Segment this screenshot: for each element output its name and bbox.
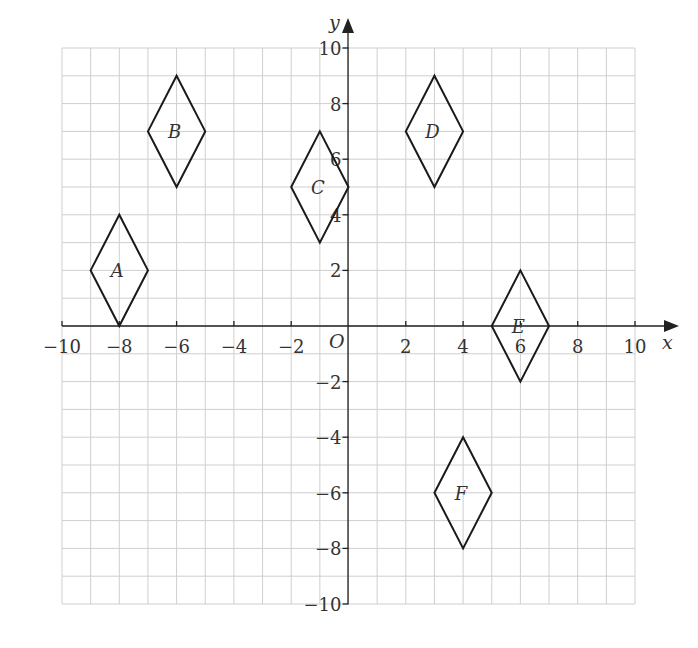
y-tick-label: 2 (330, 260, 341, 281)
shape-label: A (109, 260, 124, 281)
x-axis-label: x (662, 331, 673, 353)
y-tick-label: 4 (330, 205, 341, 226)
x-tick-label: 4 (457, 336, 468, 357)
axes: x y O (62, 11, 679, 604)
x-tick-label: 10 (624, 336, 647, 357)
y-tick-label: −4 (315, 427, 342, 448)
y-tick-label: 10 (319, 38, 342, 59)
shape-label: D (424, 121, 440, 142)
y-tick-label: −10 (304, 594, 342, 615)
x-tick-label: 2 (400, 336, 411, 357)
x-tick-label: −8 (106, 336, 133, 357)
shape-label: C (311, 177, 325, 198)
x-tick-label: −6 (163, 336, 190, 357)
y-tick-label: −2 (315, 372, 342, 393)
x-tick-label: 6 (515, 336, 526, 357)
y-tick-label: 8 (330, 94, 341, 115)
shape-label: B (167, 121, 181, 142)
y-tick-label: −8 (315, 538, 342, 559)
x-tick-label: −4 (221, 336, 248, 357)
shape-label: E (511, 316, 525, 337)
origin-label: O (329, 330, 345, 352)
coordinate-grid-diagram: x y O −10−8−6−4−2246810108642−2−4−6−8−10… (0, 0, 698, 648)
y-tick-label: −6 (315, 483, 342, 504)
x-tick-label: −2 (278, 336, 305, 357)
shape-label: F (454, 483, 469, 504)
x-tick-label: −10 (43, 336, 81, 357)
x-tick-label: 8 (572, 336, 583, 357)
y-axis-label: y (328, 11, 340, 33)
y-axis-arrow-icon (342, 18, 354, 33)
